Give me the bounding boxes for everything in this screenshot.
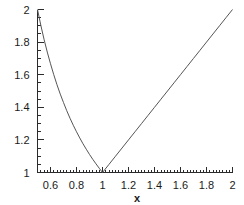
tick-labels: 0.60.811.21.41.61.8211.21.41.61.82 xyxy=(14,4,235,191)
y-tick-label: 1.8 xyxy=(14,36,29,48)
x-tick-label: 1.8 xyxy=(199,179,214,191)
y-tick-label: 2 xyxy=(23,4,29,16)
y-tick-label: 1.2 xyxy=(14,134,29,146)
x-tick-label: 0.8 xyxy=(69,179,84,191)
x-tick-label: 1.2 xyxy=(121,179,136,191)
chart-figure: 0.60.811.21.41.61.8211.21.41.61.82 x xyxy=(0,0,244,205)
x-tick-label: 1.4 xyxy=(147,179,162,191)
line-series-max-x-invx xyxy=(38,10,233,173)
plot-area: 0.60.811.21.41.61.8211.21.41.61.82 x xyxy=(0,0,244,205)
y-tick-label: 1 xyxy=(23,167,29,179)
axes xyxy=(38,10,233,173)
y-tick-label: 1.4 xyxy=(14,101,29,113)
x-tick-label: 2 xyxy=(229,179,235,191)
x-tick-label: 1.6 xyxy=(173,179,188,191)
y-tick-label: 1.6 xyxy=(14,69,29,81)
x-tick-label: 1 xyxy=(99,179,105,191)
x-tick-label: 0.6 xyxy=(43,179,58,191)
data-series-group xyxy=(38,10,233,173)
x-axis-title: x xyxy=(134,192,141,204)
tick-marks xyxy=(38,10,233,173)
